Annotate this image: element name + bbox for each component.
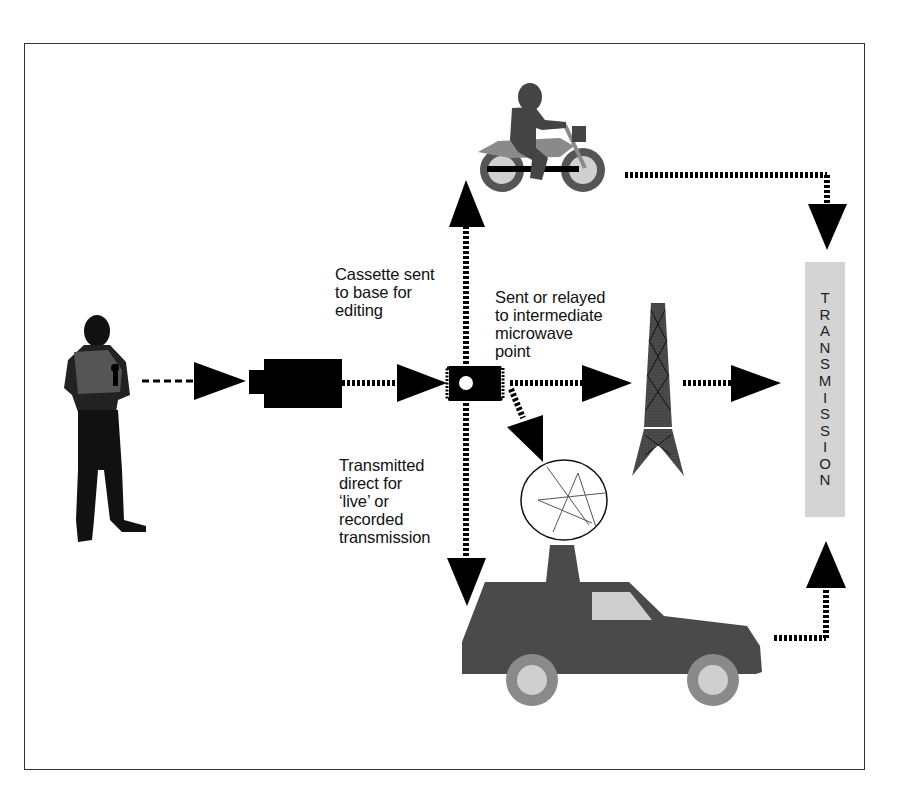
transmission-letter: N — [820, 340, 831, 357]
transmission-letter: S — [820, 406, 830, 423]
transmission-letter: I — [823, 390, 827, 407]
flow-arrow-reporter-to-camera — [142, 362, 246, 400]
flow-arrow-motorcycle-to-transmission — [625, 175, 847, 250]
flow-arrow-hub-to-tower — [510, 365, 632, 402]
label-direct-transmission: Transmitted direct for ‘live’ or recorde… — [339, 456, 430, 546]
video-camera-icon — [249, 359, 342, 408]
label-microwave-relay: Sent or relayed to intermediate microwav… — [495, 288, 605, 360]
transmission-bar: T R A N S M I S S I O N — [805, 262, 845, 517]
transmission-letter: T — [820, 290, 829, 307]
microwave-tower-icon — [632, 303, 684, 476]
transmission-letter: S — [820, 423, 830, 440]
flow-arrow-hub-to-dish — [507, 389, 543, 462]
flow-arrow-hub-to-van — [447, 403, 486, 606]
flow-arrow-tower-to-transmission — [683, 365, 781, 402]
signal-hub-icon — [447, 366, 503, 401]
motorcycle-courier-icon — [478, 83, 605, 192]
flow-arrow-camera-to-hub — [342, 364, 447, 402]
transmission-letter: M — [819, 373, 832, 390]
transmission-letter: O — [819, 456, 831, 473]
reporter-icon — [64, 315, 146, 542]
transmission-letter: R — [820, 307, 831, 324]
transmission-letter: A — [820, 323, 830, 340]
transmission-letter: N — [820, 472, 831, 489]
label-cassette-to-base: Cassette sent to base for editing — [335, 265, 435, 319]
transmission-letter: I — [823, 439, 827, 456]
flow-arrow-van-to-transmission — [774, 541, 846, 638]
satellite-van-icon — [462, 460, 762, 706]
transmission-letter: S — [820, 356, 830, 373]
diagram-artwork — [0, 0, 898, 812]
flow-arrow-hub-to-motorcycle — [449, 180, 485, 364]
